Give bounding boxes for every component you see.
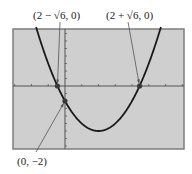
intercept-point (62, 98, 67, 103)
graph: (2 − √6, 0) (2 + √6, 0) (0, −2) (0, 0, 192, 174)
intercept-point (55, 83, 60, 88)
intercept-point (137, 83, 142, 88)
point-label-left-root: (2 − √6, 0) (33, 9, 80, 22)
point-label-right-root: (2 + √6, 0) (106, 9, 153, 22)
point-label-y-intercept: (0, −2) (17, 155, 47, 168)
